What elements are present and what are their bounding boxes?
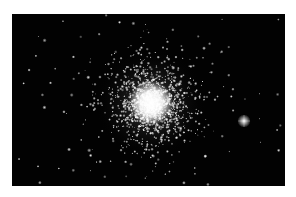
star-field-canvas xyxy=(12,14,285,186)
star-cluster-photo xyxy=(12,14,285,186)
